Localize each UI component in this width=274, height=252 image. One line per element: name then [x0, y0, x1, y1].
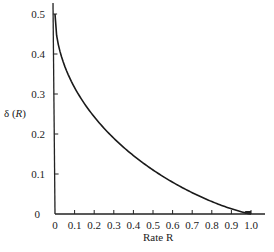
x-axis-label: Rate R: [143, 231, 174, 243]
x-tick-label: 0.7: [185, 219, 199, 231]
y-tick-label: 0.5: [31, 8, 45, 20]
x-axis-label-text: Rate R: [143, 231, 174, 243]
x-tick-label: 0.5: [146, 219, 160, 231]
x-tick-label: 0.6: [166, 219, 180, 231]
x-ticks: 00.10.20.30.40.50.60.70.80.91.0: [52, 210, 258, 231]
x-tick-label: 0.1: [68, 219, 82, 231]
axes: [53, 3, 265, 214]
y-tick-label: 0.1: [31, 168, 45, 180]
x-tick-label: 0.3: [107, 219, 121, 231]
x-tick-label: 0.4: [127, 219, 141, 231]
x-tick-label: 1.0: [244, 219, 258, 231]
y-tick-label: 0: [35, 208, 41, 220]
x-tick-label: 0: [52, 219, 58, 231]
y-tick-label: 0.2: [31, 128, 45, 140]
delta-curve: [55, 14, 251, 214]
y-tick-label: 0.4: [31, 48, 45, 60]
x-tick-label: 0.8: [205, 219, 219, 231]
chart: 00.10.20.30.40.50.60.70.80.91.0 00.10.20…: [0, 0, 274, 252]
y-axis-label: δ (R): [4, 107, 26, 120]
x-tick-label: 0.9: [225, 219, 239, 231]
y-tick-label: 0.3: [31, 88, 45, 100]
end-marker: [245, 211, 251, 214]
y-axis: [53, 3, 55, 214]
x-tick-label: 0.2: [87, 219, 101, 231]
